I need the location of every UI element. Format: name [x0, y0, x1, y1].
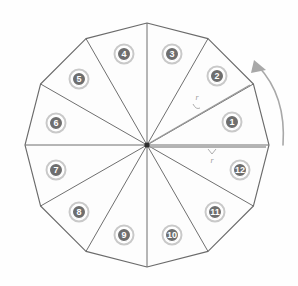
sector-badge-label: 11	[210, 207, 220, 217]
center-point	[144, 142, 149, 147]
sector-badge-label: 2	[214, 71, 219, 81]
sector-badge[interactable]: 4	[115, 45, 134, 64]
sector-badge[interactable]: 2	[208, 67, 227, 86]
sector-badge-label: 6	[53, 118, 58, 128]
sector-badge-label: 1	[229, 117, 234, 127]
sector-badge-label: 12	[235, 165, 245, 175]
sector-badge-label: 3	[169, 49, 174, 59]
figure-canvas: r r 123456789101112	[0, 0, 298, 286]
sector-badge-label: 9	[121, 230, 126, 240]
sector-badge-label: 8	[76, 207, 81, 217]
sector-badge[interactable]: 5	[70, 70, 89, 89]
sector-badge-label: 5	[76, 74, 81, 84]
sector-badge[interactable]: 8	[70, 203, 89, 222]
sector-badge[interactable]: 7	[47, 161, 66, 180]
sector-badge-label: 10	[167, 230, 177, 240]
sector-badge[interactable]: 11	[206, 203, 225, 222]
sector-badge[interactable]: 10	[163, 226, 182, 245]
sector-badge[interactable]: 12	[231, 161, 250, 180]
sector-badge[interactable]: 3	[163, 45, 182, 64]
sector-badge[interactable]: 1	[223, 113, 242, 132]
counterclockwise-arrow-head	[251, 60, 266, 73]
sector-badge[interactable]: 6	[47, 114, 66, 133]
sector-badge-label: 4	[121, 49, 126, 59]
dodecagon-diagram: r r 123456789101112	[0, 0, 298, 286]
sector-badge-label: 7	[53, 165, 58, 175]
sector-badge[interactable]: 9	[115, 226, 134, 245]
